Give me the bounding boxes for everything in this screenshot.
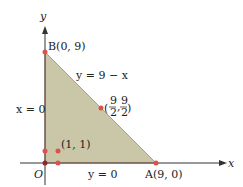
y-axis-arrow-icon (42, 26, 48, 34)
point-1-0 (56, 161, 61, 166)
label-B: B(0, 9) (48, 40, 86, 53)
comma: , (117, 100, 121, 113)
origin-label: O (34, 168, 43, 181)
point-A (154, 161, 159, 166)
x-axis-arrow-icon (219, 160, 227, 166)
point-midpoint (99, 106, 104, 111)
frac1-den: 2 (110, 106, 117, 119)
point-1-1 (56, 149, 61, 154)
point-origin (43, 161, 48, 166)
point-B (43, 50, 48, 55)
label-p11: (1, 1) (61, 138, 91, 151)
y-axis-label: y (39, 10, 47, 23)
label-hyp: y = 9 − x (75, 69, 129, 82)
triangle-region-diagram: y x O B(0, 9) A(9, 0) y = 9 − x x = 0 y … (0, 0, 243, 187)
label-left: x = 0 (16, 103, 45, 116)
x-axis-label: x (228, 157, 235, 170)
label-bottom: y = 0 (87, 168, 117, 181)
point-0-1 (43, 149, 48, 154)
paren-open: ( (104, 102, 108, 115)
label-A: A(9, 0) (144, 168, 183, 181)
paren-close: ) (127, 102, 131, 115)
